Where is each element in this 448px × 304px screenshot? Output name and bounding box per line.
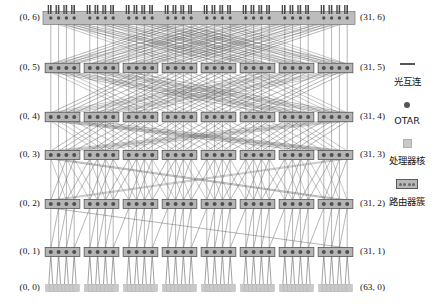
otar-node — [96, 250, 100, 254]
otar-node — [298, 115, 302, 119]
otar-node — [213, 250, 217, 254]
otar-node — [252, 115, 256, 119]
otar-node — [182, 16, 185, 19]
otar-node — [111, 115, 115, 119]
otar-node — [259, 66, 263, 70]
otar-node — [337, 153, 341, 157]
otar-node — [244, 115, 248, 119]
otar-node — [268, 16, 271, 19]
otar-node — [72, 202, 76, 206]
otar-node — [220, 66, 224, 70]
otar-node — [345, 66, 349, 70]
otar-node — [213, 153, 217, 157]
legend-label-otar: OTAR — [394, 115, 419, 126]
otar-node — [72, 66, 76, 70]
otar-node — [220, 153, 224, 157]
otar-node — [298, 66, 302, 70]
otar-node — [267, 250, 271, 254]
processor-core — [346, 284, 352, 291]
otar-node — [181, 202, 185, 206]
otar-node — [57, 250, 61, 254]
otar-node — [135, 115, 139, 119]
otar-node — [306, 66, 310, 70]
otar-node — [244, 202, 248, 206]
otar-node — [213, 202, 217, 206]
otar-node — [127, 16, 130, 19]
otar-node — [322, 153, 326, 157]
otar-node — [174, 16, 177, 19]
otar-node — [322, 202, 326, 206]
otar-node — [64, 115, 68, 119]
otar-node — [174, 153, 178, 157]
otar-node — [267, 66, 271, 70]
otar-node — [181, 115, 185, 119]
otar-node — [267, 115, 271, 119]
legend-label-optical-interconnect: 光互连 — [394, 74, 421, 88]
otar-node — [135, 250, 139, 254]
otar-node — [111, 202, 115, 206]
otar-node — [57, 153, 61, 157]
otar-node — [166, 115, 170, 119]
otar-node — [103, 115, 107, 119]
otar-node — [244, 250, 248, 254]
otar-node — [189, 153, 193, 157]
otar-node — [49, 16, 52, 19]
otar-node — [57, 66, 61, 70]
otar-node — [150, 115, 154, 119]
otar-node — [283, 66, 287, 70]
otar-node — [220, 115, 224, 119]
otar-node — [259, 202, 263, 206]
axis-label-right-6: (31, 6) — [360, 13, 385, 22]
otar-node — [166, 250, 170, 254]
otar-node — [298, 202, 302, 206]
otar-node — [72, 115, 76, 119]
otar-node — [345, 115, 349, 119]
otar-node — [291, 202, 295, 206]
otar-node — [135, 16, 138, 19]
otar-node — [205, 202, 209, 206]
otar-node — [88, 66, 92, 70]
legend-item-otar: OTAR — [394, 97, 419, 126]
otar-node — [57, 16, 60, 19]
legend-label-processor-core: 处理器核 — [389, 153, 425, 167]
otar-node — [166, 202, 170, 206]
otar-node — [96, 202, 100, 206]
otar-node — [267, 153, 271, 157]
otar-node — [228, 115, 232, 119]
otar-node — [49, 202, 53, 206]
otar-node — [260, 16, 263, 19]
otar-node — [111, 153, 115, 157]
otar-node — [337, 115, 341, 119]
otar-node — [88, 250, 92, 254]
otar-node — [135, 202, 139, 206]
otar-node — [103, 202, 107, 206]
otar-node — [96, 66, 100, 70]
otar-node — [151, 16, 154, 19]
axis-label-left-0: (0, 0) — [19, 283, 40, 292]
otar-node — [307, 16, 310, 19]
otar-node — [142, 202, 146, 206]
axis-label-right-1: (31, 1) — [360, 247, 385, 256]
otar-node — [88, 202, 92, 206]
dot-icon — [404, 97, 410, 113]
otar-node — [345, 202, 349, 206]
otar-node — [142, 153, 146, 157]
otar-node — [283, 153, 287, 157]
otar-node — [142, 250, 146, 254]
otar-node — [190, 16, 193, 19]
otar-node — [205, 115, 209, 119]
router-cluster-icon — [396, 176, 418, 192]
otar-node — [112, 16, 115, 19]
legend-label-router-cluster: 路由器簇 — [389, 194, 425, 208]
otar-node — [150, 66, 154, 70]
otar-node — [298, 250, 302, 254]
otar-node — [330, 202, 334, 206]
otar-node — [330, 115, 334, 119]
otar-node — [346, 16, 349, 19]
otar-node — [189, 250, 193, 254]
otar-node — [57, 202, 61, 206]
otar-node — [104, 16, 107, 19]
otar-node — [228, 250, 232, 254]
otar-node — [213, 66, 217, 70]
otar-node — [174, 115, 178, 119]
